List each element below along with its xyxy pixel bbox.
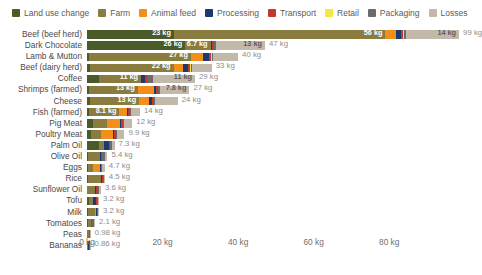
legend-item-transport[interactable]: Transport [268, 9, 316, 18]
bar-segment-farm[interactable] [93, 119, 108, 127]
bar-segment-losses[interactable] [104, 175, 105, 183]
bar-segment-farm[interactable] [90, 64, 173, 72]
bar-segment-farm[interactable] [89, 86, 138, 94]
bar-segment-farm[interactable] [99, 75, 141, 83]
bar-segment-land-use-change[interactable] [87, 41, 185, 49]
stacked-bar [87, 186, 101, 194]
bar-segment-losses[interactable] [99, 186, 101, 194]
bar-segment-animal-feed[interactable] [191, 53, 203, 61]
legend-item-land-use-change[interactable]: Land use change [12, 9, 89, 18]
bar-segment-losses[interactable] [192, 64, 212, 72]
bar-row[interactable]: Shrimps (farmed)13 kg7.8 kg27 kg [87, 84, 461, 95]
bar-segment-packaging[interactable] [147, 75, 154, 83]
legend-swatch-icon [12, 9, 20, 17]
bar-total-label: 3.2 kg [103, 207, 124, 215]
bar-segment-animal-feed[interactable] [101, 130, 113, 138]
category-label: Lamb & Mutton [26, 51, 82, 62]
category-label: Tomatoes [46, 218, 82, 229]
bar-row[interactable]: Tofu3.2 kg [87, 195, 461, 206]
bar-total-label: 29 kg [199, 73, 218, 81]
bar-segment-land-use-change[interactable] [87, 75, 99, 83]
legend-swatch-icon [98, 9, 106, 17]
legend-item-processing[interactable]: Processing [205, 9, 259, 18]
legend-item-packaging[interactable]: Packaging [368, 9, 420, 18]
chart-legend: Land use changeFarmAnimal feedProcessing… [12, 9, 467, 18]
legend-item-farm[interactable]: Farm [98, 9, 130, 18]
bar-row[interactable]: Poultry Meat9.9 kg [87, 129, 461, 140]
bar-total-label: 2.1 kg [99, 218, 120, 226]
bar-row[interactable]: Coffee11 kg11 kg29 kg [87, 73, 461, 84]
bar-segment-land-use-change[interactable] [87, 141, 99, 149]
bar-segment-losses[interactable] [213, 53, 238, 61]
bar-segment-losses[interactable] [160, 86, 189, 94]
bar-row[interactable]: Dark Chocolate26 kg6.7 kg13 kg47 kg [87, 40, 461, 51]
bar-segment-losses[interactable] [153, 75, 195, 83]
category-label: Beef (dairy herd) [20, 62, 82, 73]
x-axis-tick: 20 kg [152, 237, 172, 247]
bar-row[interactable]: Olive Oil5.4 kg [87, 151, 461, 162]
bar-total-label: 40 kg [242, 51, 261, 59]
bar-total-label: 14 kg [144, 107, 163, 115]
bar-segment-losses[interactable] [406, 30, 459, 38]
bar-total-label: 24 kg [182, 96, 201, 104]
bar-row[interactable]: Tomatoes2.1 kg [87, 218, 461, 229]
bar-segment-losses[interactable] [155, 97, 177, 105]
category-label: Shrimps (farmed) [18, 84, 82, 95]
legend-item-losses[interactable]: Losses [429, 9, 468, 18]
bar-segment-losses[interactable] [94, 219, 95, 227]
stacked-bar [87, 197, 99, 205]
bar-segment-animal-feed[interactable] [107, 119, 119, 127]
bar-segment-farm[interactable] [185, 41, 210, 49]
x-axis-tick: 80 kg [379, 237, 399, 247]
bar-segment-losses[interactable] [216, 41, 265, 49]
bar-segment-farm[interactable] [89, 108, 120, 116]
bar-row[interactable]: Palm Oil7.3 kg [87, 140, 461, 151]
bar-segment-animal-feed[interactable] [139, 97, 149, 105]
bar-segment-farm[interactable] [87, 186, 95, 194]
bar-segment-farm[interactable] [88, 152, 100, 160]
bar-segment-land-use-change[interactable] [87, 30, 174, 38]
bar-segment-animal-feed[interactable] [138, 86, 155, 94]
stacked-bar [87, 53, 238, 61]
bar-segment-losses[interactable] [112, 141, 115, 149]
legend-swatch-icon [429, 9, 437, 17]
bar-segment-animal-feed[interactable] [93, 164, 100, 172]
bar-total-label: 7.3 kg [119, 140, 140, 148]
bar-row[interactable]: Beef (dairy herd)22 kg33 kg [87, 62, 461, 73]
bar-segment-animal-feed[interactable] [174, 64, 183, 72]
bar-segment-farm[interactable] [174, 30, 386, 38]
bar-segment-losses[interactable] [105, 152, 108, 160]
bar-row[interactable]: Lamb & Mutton27 kg40 kg [87, 51, 461, 62]
bar-row[interactable]: Milk3.2 kg [87, 207, 461, 218]
category-label: Milk [67, 207, 82, 218]
category-label: Tofu [66, 195, 82, 206]
legend-item-retail[interactable]: Retail [325, 9, 359, 18]
bar-segment-animal-feed[interactable] [119, 108, 126, 116]
category-label: Pig Meat [49, 118, 82, 129]
bar-segment-losses[interactable] [98, 208, 99, 216]
bar-row[interactable]: Sunflower Oil3.6 kg [87, 184, 461, 195]
bar-segment-animal-feed[interactable] [385, 30, 396, 38]
legend-label: Farm [110, 9, 130, 18]
bar-segment-losses[interactable] [131, 108, 140, 116]
bar-segment-farm[interactable] [90, 97, 139, 105]
bar-segment-losses[interactable] [117, 130, 125, 138]
legend-label: Transport [280, 9, 316, 18]
bar-row[interactable]: Cheese13 kg24 kg [87, 96, 461, 107]
bar-segment-losses[interactable] [98, 197, 99, 205]
bar-row[interactable]: Rice4.5 kg [87, 173, 461, 184]
x-axis: 0 kg20 kg40 kg60 kg80 kg [87, 231, 461, 251]
stacked-bar [87, 119, 132, 127]
bar-segment-losses[interactable] [124, 119, 132, 127]
stacked-bar [87, 86, 189, 94]
legend-label: Animal feed [151, 9, 196, 18]
bar-segment-losses[interactable] [102, 164, 104, 172]
bar-total-label: 4.5 kg [109, 173, 130, 181]
legend-item-animal-feed[interactable]: Animal feed [139, 9, 196, 18]
legend-swatch-icon [205, 9, 213, 17]
bar-segment-farm[interactable] [91, 130, 101, 138]
bar-segment-farm[interactable] [89, 53, 191, 61]
x-axis-tick: 60 kg [304, 237, 324, 247]
bar-row[interactable]: Eggs4.7 kg [87, 162, 461, 173]
bar-segment-farm[interactable] [88, 175, 102, 183]
